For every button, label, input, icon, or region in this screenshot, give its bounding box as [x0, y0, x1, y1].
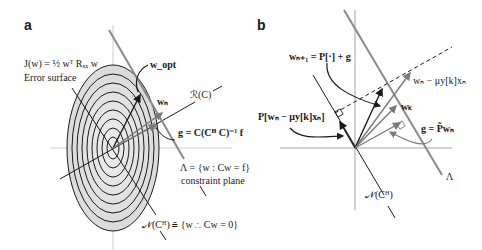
step-equation: wₙ − μy[k]xₙ [413, 76, 466, 86]
b-w-k-arrow [355, 106, 396, 148]
lambda-label: Λ [446, 172, 453, 182]
range-label: ℛ(C) [190, 90, 211, 100]
error-surface-equation: J(w) = ½ wᵀ Rₓₓ w [24, 59, 98, 69]
b-projection-arrow [340, 122, 355, 148]
constraint-equation: Λ = {w : Cw = f} [180, 163, 250, 173]
diagram-canvas [0, 0, 482, 250]
b-projection-pointer [290, 128, 343, 137]
b-update-pointer [327, 63, 380, 106]
g-equation-b: g = P̃wₙ [421, 124, 454, 134]
w-k-label: wₖ [401, 102, 412, 112]
nullspace-equation-a: 𝒩(Cᴴ) ≜ {w ∴ Cw = 0} [142, 220, 238, 230]
error-surface-label: Error surface [24, 73, 76, 83]
constraint-plane-label: constraint plane [181, 176, 245, 186]
update-equation: wₙ₊₁ = P[·] + g [289, 52, 351, 62]
b-right-angle-2 [397, 121, 405, 129]
w-opt-label: w_opt [150, 60, 176, 70]
g-equation-a: g = C(Cᴴ C)⁻¹ f [178, 128, 243, 138]
a-range-dash [213, 86, 222, 91]
projection-equation: P[wₙ − μy[k]xₙ] [258, 112, 325, 122]
b-constraint-line [344, 10, 442, 175]
b-w-next-arrow [355, 89, 382, 148]
nullspace-label-b: 𝒩(Cᴴ) [365, 190, 393, 200]
panel-a-label: a [24, 17, 32, 33]
a-nullspace-dash [160, 231, 166, 240]
b-g-arrow [355, 123, 400, 148]
a-constraint-dash [200, 186, 206, 196]
w-n-label-a: wₙ [157, 97, 168, 107]
b-nullspace-dash [388, 206, 395, 218]
b-right-angle-1 [335, 109, 343, 117]
panel-b-label: b [257, 17, 266, 33]
